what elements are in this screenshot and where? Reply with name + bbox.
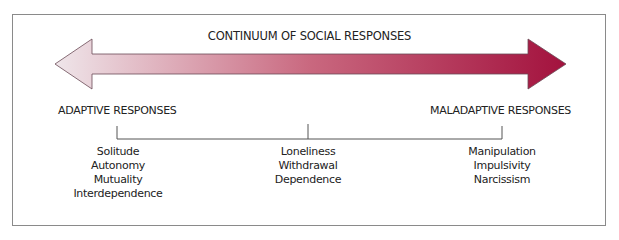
list-item: Solitude [48,145,188,159]
list-item: Narcissism [432,173,572,187]
list-item: Manipulation [432,145,572,159]
middle-responses-list: Loneliness Withdrawal Dependence [238,145,378,187]
maladaptive-responses-list: Manipulation Impulsivity Narcissism [432,145,572,187]
list-item: Impulsivity [432,159,572,173]
list-item: Withdrawal [238,159,378,173]
list-item: Mutuality [48,173,188,187]
continuum-bracket [0,0,619,240]
list-item: Autonomy [48,159,188,173]
list-item: Dependence [238,173,378,187]
adaptive-responses-list: Solitude Autonomy Mutuality Interdepende… [48,145,188,201]
list-item: Interdependence [48,187,188,201]
list-item: Loneliness [238,145,378,159]
